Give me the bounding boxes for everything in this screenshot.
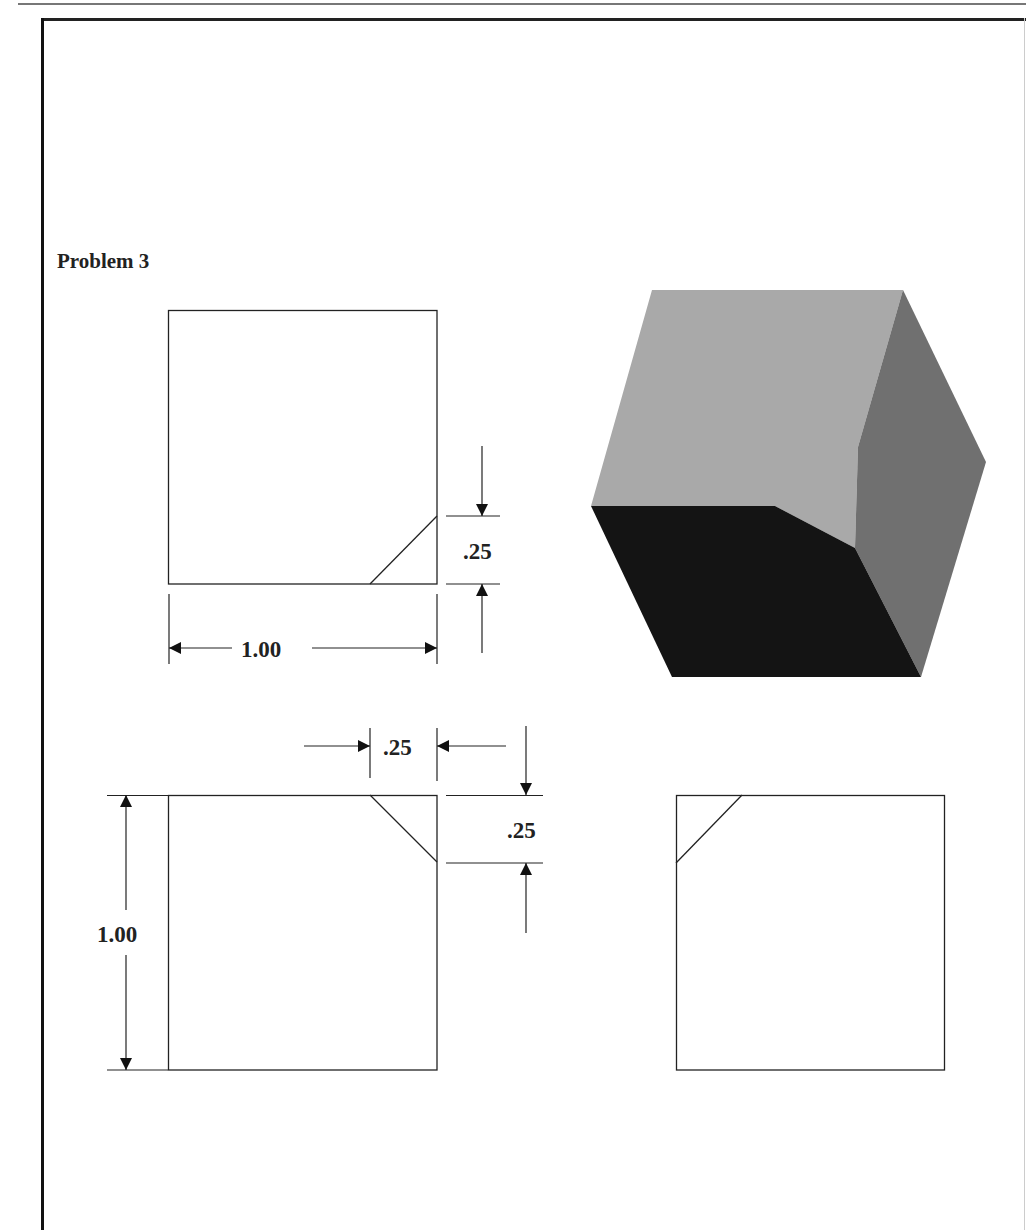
front-view-chamfer-line: [370, 795, 437, 862]
top-view-chamfer-line: [370, 516, 437, 584]
right-side-view-chamfer-line: [676, 795, 742, 863]
top-view-width-label: 1.00: [241, 637, 281, 662]
top-view-chamfer-label: .25: [463, 539, 492, 564]
top-view-width-dimension: [169, 594, 437, 664]
front-view-chamfer-height-label: .25: [507, 818, 536, 843]
front-view-outline: [169, 796, 438, 1071]
isometric-cube: [591, 290, 986, 677]
front-view-height-label: 1.00: [97, 922, 137, 947]
orthographic-drawing: 1.00 .25 1.00 .25 .25: [0, 0, 1026, 1230]
top-view-outline: [169, 311, 438, 585]
front-view: [169, 795, 438, 1070]
front-view-chamfer-width-label: .25: [383, 735, 412, 760]
top-view: [169, 311, 438, 585]
right-side-view-outline: [677, 796, 945, 1071]
right-side-view: [676, 795, 945, 1070]
